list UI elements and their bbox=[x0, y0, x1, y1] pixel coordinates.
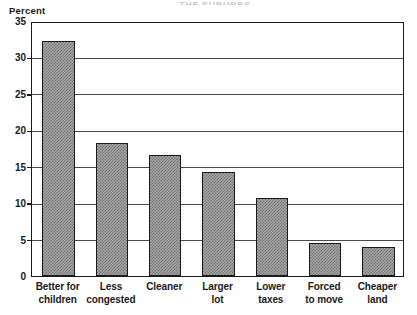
x-axis-category-label-line2: congested bbox=[80, 293, 141, 306]
x-axis-category-label-line1: Lower bbox=[256, 281, 285, 292]
x-axis-category-label-line2: to move bbox=[293, 293, 354, 306]
x-axis-category-label-line1: Better for bbox=[36, 281, 80, 292]
bar bbox=[96, 143, 129, 276]
bar bbox=[202, 172, 235, 276]
bar-chart-figure: THE SUBURBS Percent 05101520253035 Bette… bbox=[0, 0, 417, 315]
gridline bbox=[32, 94, 403, 95]
x-axis-category-label-line1: Less bbox=[100, 281, 122, 292]
gridline bbox=[32, 131, 403, 132]
bar bbox=[42, 41, 75, 276]
plot-area bbox=[31, 22, 404, 277]
bar bbox=[256, 198, 289, 276]
gridline bbox=[32, 58, 403, 59]
bar bbox=[149, 155, 182, 276]
x-axis-category-label-line2: lot bbox=[187, 293, 248, 306]
x-axis-category-label: Cheaperland bbox=[347, 280, 408, 306]
x-axis-category-label-line2: taxes bbox=[240, 293, 301, 306]
x-axis-category-label: Lesscongested bbox=[80, 280, 141, 306]
x-axis-category-label-line1: Cleaner bbox=[146, 281, 182, 292]
gridline bbox=[32, 167, 403, 168]
x-axis-category-label: Cleaner bbox=[134, 280, 195, 293]
x-axis-category-labels: Better forchildrenLesscongestedCleanerLa… bbox=[31, 280, 404, 314]
x-axis-category-label-line2: land bbox=[347, 293, 408, 306]
x-axis-category-label-line1: Cheaper bbox=[358, 281, 397, 292]
x-axis-category-label: Largerlot bbox=[187, 280, 248, 306]
x-axis-category-label-line1: Larger bbox=[202, 281, 233, 292]
bar bbox=[309, 243, 342, 276]
x-axis-category-label-line1: Forced bbox=[308, 281, 341, 292]
x-axis-category-label: Forcedto move bbox=[293, 280, 354, 306]
x-axis-category-label: Better forchildren bbox=[27, 280, 88, 306]
x-axis-category-label: Lowertaxes bbox=[240, 280, 301, 306]
x-axis-category-label-line2: children bbox=[27, 293, 88, 306]
bar bbox=[362, 247, 395, 276]
